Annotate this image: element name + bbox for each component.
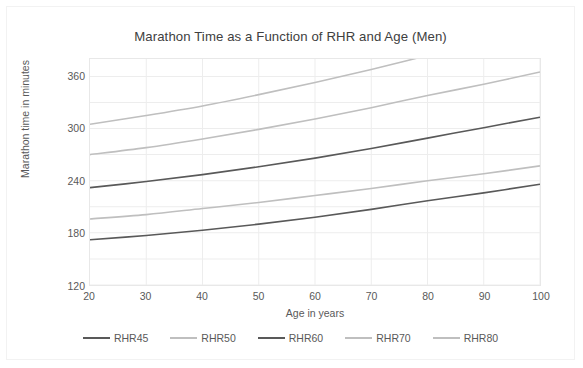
legend-label: RHR50 <box>201 332 235 344</box>
x-tick-80: 80 <box>408 290 448 302</box>
y-axis-tick-labels: 120180240300360 <box>41 58 85 286</box>
plot-svg <box>90 59 540 285</box>
chart-title: Marathon Time as a Function of RHR and A… <box>7 29 574 44</box>
legend-label: RHR60 <box>289 332 323 344</box>
legend-item-rhr60[interactable]: RHR60 <box>258 332 323 344</box>
x-tick-50: 50 <box>239 290 279 302</box>
legend-swatch-icon <box>258 337 285 339</box>
x-tick-60: 60 <box>295 290 335 302</box>
x-tick-30: 30 <box>126 290 166 302</box>
legend-label: RHR45 <box>114 332 148 344</box>
legend-swatch-icon <box>345 337 372 339</box>
x-tick-40: 40 <box>182 290 222 302</box>
legend-item-rhr80[interactable]: RHR80 <box>433 332 498 344</box>
legend-item-rhr45[interactable]: RHR45 <box>83 332 148 344</box>
x-axis-title: Age in years <box>89 307 541 319</box>
x-tick-70: 70 <box>352 290 392 302</box>
x-axis-tick-labels: 2030405060708090100 <box>89 290 541 306</box>
y-tick-300: 300 <box>49 122 85 134</box>
legend-item-rhr50[interactable]: RHR50 <box>170 332 235 344</box>
x-tick-100: 100 <box>521 290 561 302</box>
y-tick-360: 360 <box>49 70 85 82</box>
y-tick-240: 240 <box>49 175 85 187</box>
plot-area <box>89 58 541 286</box>
chart-legend: RHR45RHR50RHR60RHR70RHR80 <box>7 332 574 344</box>
chart-container: Marathon Time as a Function of RHR and A… <box>6 6 575 360</box>
y-axis-title: Marathon time in minutes <box>19 39 31 199</box>
x-tick-20: 20 <box>69 290 109 302</box>
x-tick-90: 90 <box>465 290 505 302</box>
legend-item-rhr70[interactable]: RHR70 <box>345 332 410 344</box>
legend-swatch-icon <box>433 337 460 339</box>
legend-label: RHR80 <box>464 332 498 344</box>
legend-swatch-icon <box>83 337 110 339</box>
y-tick-180: 180 <box>49 227 85 239</box>
legend-label: RHR70 <box>376 332 410 344</box>
legend-swatch-icon <box>170 337 197 339</box>
